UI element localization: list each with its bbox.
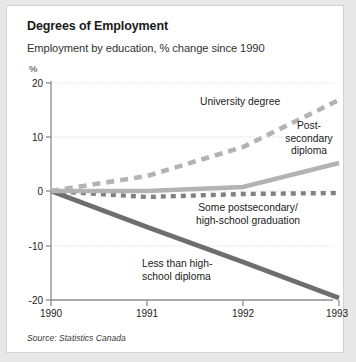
xtick-label-1993: 1993 (326, 308, 348, 319)
xtick-label-1990: 1990 (40, 308, 62, 319)
series-annotation-university-degree: University degree (200, 96, 280, 109)
chart-card: Degrees of Employment Employment by educ… (6, 5, 344, 353)
ytick-label-10: 10 (13, 132, 43, 143)
xtick-label-1992: 1992 (232, 308, 254, 319)
source-note: Source: Statistics Canada (27, 333, 126, 343)
chart-plot-area (7, 6, 345, 354)
series-annotation-postsecondary-diploma: Post- secondary diploma (273, 120, 345, 158)
series-annotation-less-than-high-school: Less than high- school diploma (142, 258, 212, 283)
ytick-label-20: 20 (13, 78, 43, 89)
xtick-label-1991: 1991 (136, 308, 158, 319)
ytick-label-neg20: -20 (13, 295, 43, 306)
series-annotation-some-postsecondary: Some postsecondary/ high-school graduati… (181, 202, 315, 227)
ytick-label-0: 0 (13, 186, 43, 197)
series-postsecondary-diploma (51, 163, 339, 191)
ytick-label-neg10: -10 (13, 241, 43, 252)
